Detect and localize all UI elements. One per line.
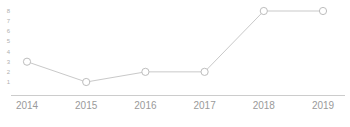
data-point-2016[interactable] [142, 68, 149, 75]
data-point-2014[interactable] [23, 58, 30, 65]
series-markers [23, 7, 326, 85]
x-tick-label-2019: 2019 [300, 101, 346, 111]
y-tick-label-6: 6 [1, 28, 10, 34]
x-tick-label-2014: 2014 [4, 101, 50, 111]
data-point-2018[interactable] [260, 7, 267, 14]
y-tick-label-3: 3 [1, 59, 10, 65]
x-tick-label-2015: 2015 [63, 101, 109, 111]
y-tick-label-1: 1 [1, 79, 10, 85]
data-point-2015[interactable] [83, 78, 90, 85]
x-tick-label-2016: 2016 [122, 101, 168, 111]
x-tick-label-2018: 2018 [241, 101, 287, 111]
data-point-2019[interactable] [319, 7, 326, 14]
series-line [27, 11, 323, 82]
y-tick-label-8: 8 [1, 8, 10, 14]
y-tick-label-5: 5 [1, 38, 10, 44]
line-chart: 87654321 201420152016201720182019 [0, 0, 350, 127]
y-tick-label-2: 2 [1, 69, 10, 75]
chart-plot-area [0, 0, 350, 127]
y-tick-label-7: 7 [1, 18, 10, 24]
data-point-2017[interactable] [201, 68, 208, 75]
y-tick-label-4: 4 [1, 49, 10, 55]
x-tick-label-2017: 2017 [182, 101, 228, 111]
